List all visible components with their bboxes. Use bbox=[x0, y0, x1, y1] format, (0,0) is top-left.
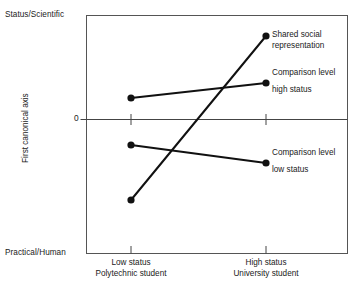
data-point-shared-social-high-status bbox=[262, 32, 269, 39]
series-label-comparison-level-high-status: Comparison level high status bbox=[272, 67, 335, 95]
data-point-comparison-low-high-status bbox=[262, 159, 269, 166]
x-tick-label-low-status-line1: Low status bbox=[71, 258, 191, 269]
x-tick-label-low-status: Low status Polytechnic student bbox=[71, 258, 191, 279]
series-label-comparison-high-line2: high status bbox=[272, 84, 335, 95]
series-label-comparison-low-line2: low status bbox=[272, 164, 335, 175]
y-axis-bottom-pole-label: Practical/Human bbox=[5, 249, 66, 257]
x-tick-label-high-status: High status University student bbox=[206, 258, 326, 279]
x-tick-label-high-status-line1: High status bbox=[206, 258, 326, 269]
x-tick-label-high-status-line2: University student bbox=[206, 269, 326, 280]
canonical-axis-line-chart: Status/Scientific Practical/Human 0 Firs… bbox=[0, 0, 359, 298]
series-label-shared-social-representation: Shared social representation bbox=[272, 29, 324, 51]
data-point-comparison-low-low-status bbox=[127, 141, 134, 148]
series-label-comparison-high-line1: Comparison level bbox=[272, 67, 335, 78]
y-axis-title: First canonical axis bbox=[22, 69, 30, 187]
series-label-shared-social-line2: representation bbox=[272, 40, 324, 51]
data-point-comparison-high-high-status bbox=[262, 79, 269, 86]
series-label-shared-social-line1: Shared social bbox=[272, 29, 324, 40]
y-axis-zero-tick-label: 0 bbox=[74, 114, 79, 122]
data-point-comparison-high-low-status bbox=[127, 94, 134, 101]
data-point-shared-social-low-status bbox=[127, 196, 134, 203]
series-label-comparison-low-line1: Comparison level bbox=[272, 147, 335, 158]
y-axis-top-pole-label: Status/Scientific bbox=[5, 11, 64, 19]
x-tick-label-low-status-line2: Polytechnic student bbox=[71, 269, 191, 280]
plot-frame bbox=[87, 16, 348, 254]
series-label-comparison-level-low-status: Comparison level low status bbox=[272, 147, 335, 175]
